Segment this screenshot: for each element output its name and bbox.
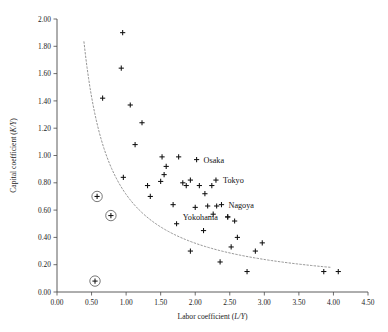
data-point <box>148 194 153 199</box>
data-point <box>174 221 179 226</box>
y-tick-label: 0.60 <box>38 206 51 215</box>
data-point <box>188 177 193 182</box>
scatter-chart: 0.000.200.400.600.801.001.201.401.601.80… <box>0 0 388 332</box>
data-point <box>202 191 207 196</box>
x-tick-label: 4.50 <box>362 298 375 307</box>
x-tick-label: 2.50 <box>223 298 236 307</box>
data-point <box>176 154 181 159</box>
data-point <box>145 183 150 188</box>
data-point <box>260 240 265 245</box>
x-tick-label: 1.00 <box>120 298 133 307</box>
x-tick-label: 4.00 <box>327 298 340 307</box>
point-label-nagoya: Nagoya <box>228 201 254 210</box>
data-point <box>209 183 214 188</box>
data-point <box>188 248 193 253</box>
x-axis-title: Labor coefficient (L/Y) <box>178 312 248 321</box>
data-point <box>218 259 223 264</box>
data-point <box>232 218 237 223</box>
data-point <box>159 154 164 159</box>
point-label-yokohama: Yokohama <box>183 213 218 222</box>
data-point-highlighted <box>92 278 97 283</box>
data-point <box>162 172 167 177</box>
data-point <box>214 203 219 208</box>
data-point <box>253 248 258 253</box>
data-point <box>120 30 125 35</box>
data-point <box>193 205 198 210</box>
x-tick-label: 3.50 <box>292 298 305 307</box>
y-tick-label: 1.20 <box>38 124 51 133</box>
data-point <box>121 175 126 180</box>
data-point <box>132 142 137 147</box>
data-point <box>119 66 124 71</box>
y-axis-title: Capital coefficient (K/Y) <box>9 118 18 193</box>
data-point-labeled <box>225 214 230 219</box>
y-tick-label: 1.40 <box>38 97 51 106</box>
data-point <box>336 269 341 274</box>
y-tick-label: 1.60 <box>38 69 51 78</box>
point-label-tokyo: Tokyo <box>223 176 244 185</box>
x-tick-label: 0.50 <box>85 298 98 307</box>
data-point <box>197 183 202 188</box>
data-point <box>164 164 169 169</box>
trend-curve <box>84 42 330 268</box>
data-point <box>201 228 206 233</box>
data-point <box>171 202 176 207</box>
chart-canvas: 0.000.200.400.600.801.001.201.401.601.80… <box>0 0 388 332</box>
y-tick-label: 1.00 <box>38 151 51 160</box>
x-tick-label: 2.00 <box>189 298 202 307</box>
data-point <box>180 180 185 185</box>
x-tick-label: 0.00 <box>51 298 64 307</box>
data-point <box>184 183 189 188</box>
data-point <box>205 203 210 208</box>
y-tick-label: 2.00 <box>38 15 51 24</box>
data-point <box>158 179 163 184</box>
data-point <box>321 269 326 274</box>
data-point-labeled <box>194 157 199 162</box>
data-point <box>139 120 144 125</box>
data-point-labeled <box>213 177 218 182</box>
data-point <box>100 96 105 101</box>
x-tick-label: 1.50 <box>154 298 167 307</box>
y-tick-label: 0.40 <box>38 233 51 242</box>
data-point <box>229 244 234 249</box>
data-point-labeled <box>219 202 224 207</box>
data-point <box>244 269 249 274</box>
data-point <box>235 235 240 240</box>
x-tick-label: 3.00 <box>258 298 271 307</box>
y-tick-label: 0.80 <box>38 178 51 187</box>
data-point <box>128 102 133 107</box>
y-tick-label: 0.20 <box>38 260 51 269</box>
point-label-osaka: Osaka <box>204 156 225 165</box>
data-point-highlighted <box>94 194 99 199</box>
data-point-highlighted <box>108 213 113 218</box>
y-tick-label: 1.80 <box>38 42 51 51</box>
y-tick-label: 0.00 <box>38 288 51 297</box>
